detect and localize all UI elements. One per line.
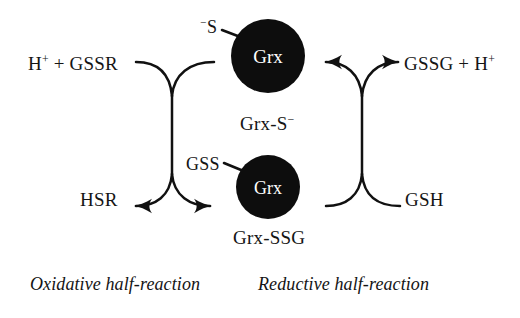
label-gssg-h-plus-pre: GSSG + H	[404, 53, 488, 74]
label-thiolate-s-text: S	[207, 17, 217, 37]
oxidative-bowtie-arrow	[136, 62, 214, 206]
figure-canvas: Grx Grx H+ + GSSR GSSG + H+ HSR GSH Grx-…	[0, 0, 520, 318]
reductive-output-grx-curve	[326, 62, 362, 96]
label-gss: GSS	[186, 155, 220, 173]
label-h-plus-gssr-post: + GSSR	[49, 53, 118, 74]
reductive-input-gsh-curve	[362, 174, 400, 206]
reductive-input-left-curve	[326, 174, 362, 206]
label-hsr: HSR	[80, 190, 118, 209]
label-grx-ssg: Grx-SSG	[233, 228, 305, 247]
caption-reductive-half-reaction: Reductive half-reaction	[258, 274, 429, 295]
oxidative-output-hsr-curve	[136, 174, 172, 206]
label-gssg-h-plus: GSSG + H+	[404, 54, 495, 73]
oxidative-output-grx-curve	[172, 174, 210, 206]
label-thiolate-s: −S	[200, 18, 217, 36]
label-grx-s-minus: Grx-S−	[240, 114, 294, 133]
grx-node-bottom: Grx	[236, 155, 300, 219]
label-h-plus-gssr-sup: +	[42, 53, 49, 66]
label-thiolate-s-sup: −	[200, 16, 207, 28]
grx-top-label: Grx	[253, 46, 283, 67]
grx-bottom-label: Grx	[254, 178, 282, 198]
label-gssg-h-plus-sup: +	[488, 53, 495, 66]
oxidative-input-left-curve	[136, 62, 172, 96]
reaction-scheme-svg: Grx Grx	[0, 0, 520, 318]
label-h-plus-gssr-pre: H	[28, 53, 42, 74]
reductive-output-gssg-curve	[362, 62, 398, 96]
oxidative-input-right-curve	[172, 62, 214, 96]
label-h-plus-gssr: H+ + GSSR	[28, 54, 118, 73]
label-gsh: GSH	[405, 190, 444, 209]
grx-node-top: Grx	[231, 19, 305, 93]
label-grx-s-minus-pre: Grx-S	[240, 113, 287, 134]
label-grx-s-minus-sup: −	[287, 113, 294, 126]
caption-oxidative-half-reaction: Oxidative half-reaction	[30, 274, 200, 295]
reductive-bowtie-arrow	[326, 62, 400, 206]
